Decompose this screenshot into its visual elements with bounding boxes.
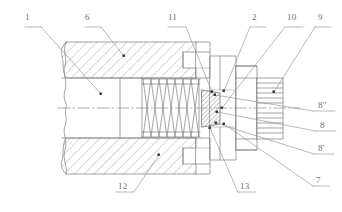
housing-lower-section <box>61 138 196 174</box>
callout-label-8: 8 <box>320 120 325 130</box>
callout-label-7: 7 <box>316 175 321 185</box>
drawing-geometry <box>25 27 336 192</box>
callout-label-8-prime: 8' <box>318 143 325 153</box>
callout-label-8-double-prime: 8" <box>318 100 327 110</box>
callout-label-9: 9 <box>318 12 323 22</box>
callout-label-2: 2 <box>252 12 257 22</box>
callout-label-11: 11 <box>168 12 177 22</box>
callout-label-13: 13 <box>240 181 249 191</box>
callout-label-10: 10 <box>287 12 296 22</box>
ribbed-threaded-section <box>236 78 283 139</box>
callout-label-6: 6 <box>85 12 90 22</box>
callout-label-1: 1 <box>25 12 30 22</box>
technical-drawing-canvas <box>0 0 342 212</box>
callout-label-12: 12 <box>118 181 127 191</box>
patent-figure: 1 6 11 2 10 9 8" 8 8' 7 13 12 <box>0 0 342 212</box>
